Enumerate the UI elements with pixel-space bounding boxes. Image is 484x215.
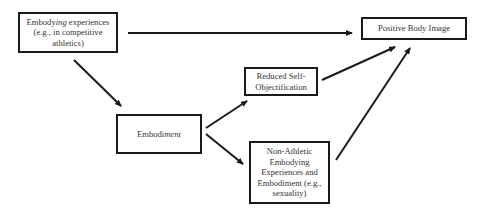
arrow-reduced-self-objectification-to-positive-body-image: [322, 47, 395, 80]
arrow-embodiment-to-reduced-self-objectification: [206, 101, 247, 128]
node-reduced-self-objectification-label: Reduced Self-Objectification: [254, 71, 308, 92]
node-embodying-experiences-label: Embodying experiences (e.g., in competit…: [26, 17, 110, 48]
node-embodying-experiences: Embodying experiences (e.g., in competit…: [18, 12, 118, 53]
arrow-embodiment-to-non-athletic: [206, 134, 243, 164]
node-positive-body-image: Positive Body Image: [361, 17, 467, 40]
node-reduced-self-objectification: Reduced Self-Objectification: [244, 67, 318, 96]
node-non-athletic-embodying: Non-Athletic Embodying Experiences and E…: [249, 141, 330, 204]
node-embodiment: Embodiment: [116, 114, 202, 154]
arrow-non-athletic-to-positive-body-image: [336, 48, 410, 160]
node-embodiment-label: Embodiment: [137, 129, 181, 139]
node-non-athletic-embodying-label: Non-Athletic Embodying Experiences and E…: [255, 146, 324, 198]
arrow-embodying-to-embodiment: [74, 60, 121, 106]
node-positive-body-image-label: Positive Body Image: [378, 23, 450, 33]
